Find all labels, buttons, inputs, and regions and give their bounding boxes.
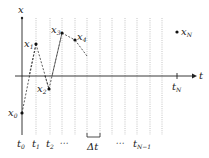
x-axis-top-dot [21, 17, 23, 19]
t-axis-arrowhead-icon [192, 74, 197, 79]
segment-x0-x1 [22, 44, 36, 113]
t2-label: t2 [46, 138, 54, 150]
point-x0 [20, 111, 23, 114]
point-label-x3: x3 [51, 24, 61, 36]
point-label-x1: x1 [24, 38, 33, 50]
delta-t-label: Δt [86, 141, 99, 152]
tN-label: tN [172, 81, 182, 93]
point-x3 [60, 31, 63, 34]
point-label-x4: x4 [77, 31, 87, 43]
point-x1 [34, 42, 37, 45]
x-axis-label: x [18, 4, 24, 15]
point-xN [175, 30, 178, 33]
point-label-x0: x0 [8, 107, 18, 119]
time-discretization-diagram: x t x0x1x2x3x4xN t0 t1 t2 ⋯ Δt ⋯ tN−1 tN [0, 0, 209, 158]
tNm1-label: tN−1 [133, 138, 151, 150]
axes [15, 18, 192, 135]
point-x2 [47, 87, 50, 90]
t0-label: t0 [17, 138, 25, 150]
ellipsis-right: ⋯ [115, 138, 124, 148]
delta-t-bracket [87, 133, 100, 137]
t-axis-label: t [199, 70, 204, 81]
ellipsis-left: ⋯ [59, 138, 68, 148]
point-label-x2: x2 [37, 83, 47, 95]
trajectory-points: x0x1x2x3x4xN [8, 24, 193, 119]
t1-label: t1 [32, 138, 40, 150]
time-step-grid-lines [36, 18, 162, 135]
segment-x3-x4 [62, 33, 75, 40]
point-label-xN: xN [181, 26, 193, 38]
